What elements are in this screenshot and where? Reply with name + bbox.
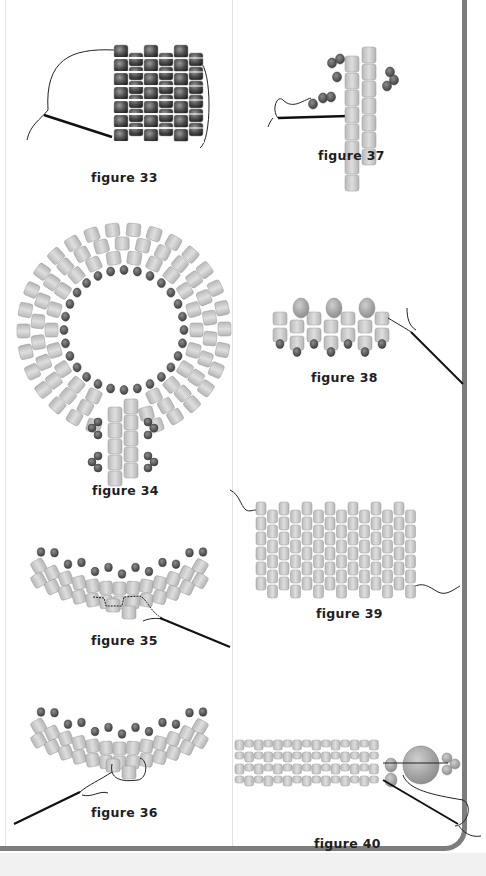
figure-40-caption: figure 40 (314, 836, 381, 851)
figure-page: figure 33 figure 34 figure 35 figure 36 … (0, 0, 486, 876)
figure-38-caption: figure 38 (311, 370, 378, 385)
figure-34-caption: figure 34 (92, 483, 159, 498)
figure-33-caption: figure 33 (91, 170, 158, 185)
figure-35-caption: figure 35 (91, 633, 158, 648)
bottom-band (0, 853, 486, 876)
figure-34-diagram (0, 200, 232, 490)
figure-33-diagram (0, 0, 232, 170)
figure-39-diagram (228, 460, 468, 610)
figure-37-caption: figure 37 (318, 148, 385, 163)
figure-39-caption: figure 39 (316, 606, 383, 621)
figure-40-diagram (233, 720, 486, 850)
figure-36-caption: figure 36 (91, 805, 158, 820)
figure-37-diagram (233, 0, 463, 160)
